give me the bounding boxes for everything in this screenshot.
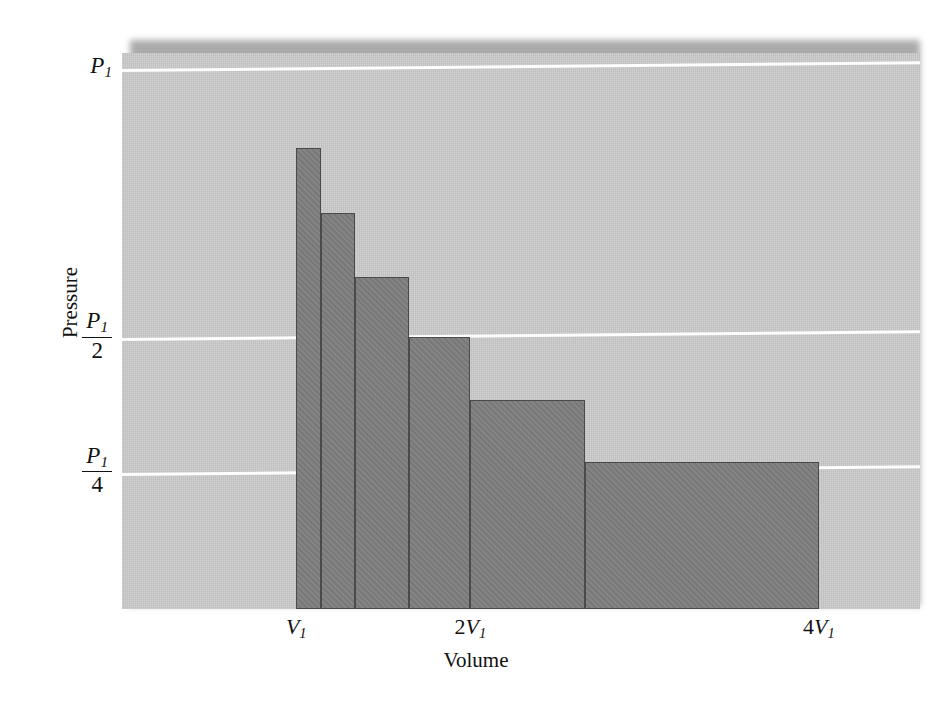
y-axis-label: Pressure bbox=[58, 223, 83, 383]
bar-texture bbox=[297, 149, 319, 608]
subscript: 1 bbox=[479, 625, 486, 641]
bar-2 bbox=[321, 213, 356, 609]
bar-texture bbox=[410, 338, 469, 608]
bar-texture bbox=[586, 463, 817, 608]
bar-texture bbox=[471, 401, 584, 608]
x-axis-label: Volume bbox=[0, 648, 952, 673]
subscript: 1 bbox=[828, 625, 835, 641]
plot-panel bbox=[122, 53, 920, 609]
subscript: 1 bbox=[100, 318, 108, 335]
gridline-1 bbox=[122, 61, 920, 72]
x-tick-coefficient: 2 bbox=[455, 614, 466, 639]
x-tick-2: 2V1 bbox=[455, 614, 487, 642]
y-tick-symbol: P bbox=[90, 53, 104, 78]
bar-5 bbox=[470, 400, 585, 609]
x-tick-symbol: V bbox=[466, 614, 479, 639]
subscript: 1 bbox=[104, 63, 112, 80]
bar-1 bbox=[296, 148, 320, 609]
bar-6 bbox=[585, 462, 818, 609]
x-tick-1: V1 bbox=[286, 614, 307, 642]
gridline-2 bbox=[122, 330, 920, 341]
fraction-denominator: 2 bbox=[82, 338, 112, 364]
fraction-denominator: 4 bbox=[82, 472, 112, 498]
bar-texture bbox=[322, 214, 355, 608]
fraction: P14 bbox=[82, 444, 112, 498]
fraction-numerator: P1 bbox=[82, 309, 112, 338]
x-tick-symbol: V bbox=[814, 614, 827, 639]
fraction-numerator: P1 bbox=[82, 444, 112, 473]
bar-4 bbox=[409, 337, 470, 609]
y-tick-1: P1 bbox=[0, 54, 112, 79]
subscript: 1 bbox=[299, 625, 306, 641]
x-tick-coefficient: 4 bbox=[803, 614, 814, 639]
subscript: 1 bbox=[100, 453, 108, 470]
x-tick-symbol: V bbox=[286, 614, 299, 639]
x-tick-3: 4V1 bbox=[803, 614, 835, 642]
y-tick-2: P12 bbox=[0, 309, 112, 363]
pressure-volume-figure: P1P12P14 V12V14V1 Pressure Volume bbox=[0, 0, 952, 704]
bar-3 bbox=[355, 277, 409, 609]
y-tick-3: P14 bbox=[0, 444, 112, 498]
bar-texture bbox=[356, 278, 408, 608]
fraction: P12 bbox=[82, 309, 112, 363]
